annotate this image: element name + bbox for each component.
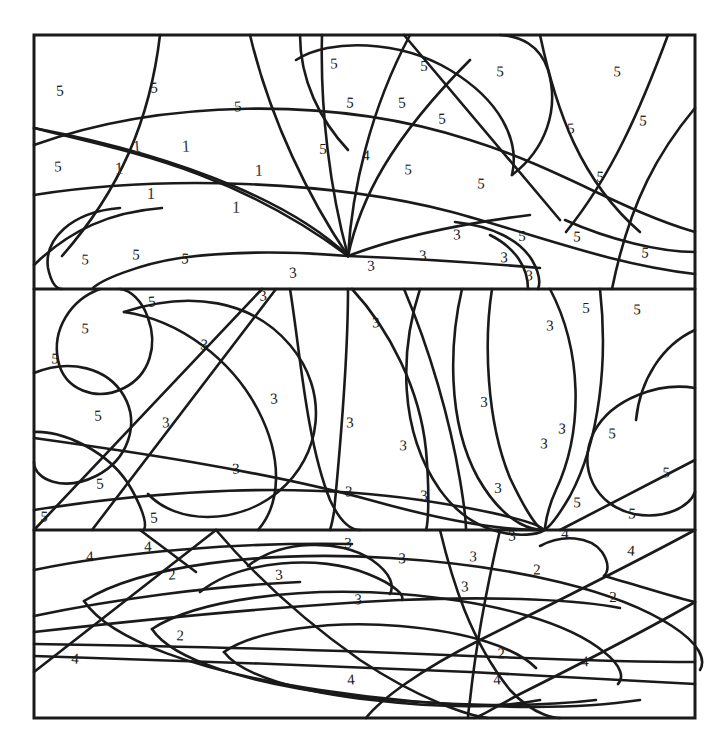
region-number: 5	[641, 244, 650, 260]
region-number: 5	[148, 293, 157, 309]
region-number: 3	[399, 437, 407, 453]
region-number: 3	[344, 535, 352, 551]
region-number: 1	[181, 137, 190, 156]
region-number: 3	[232, 460, 240, 476]
region-number: 5	[420, 58, 428, 74]
region-number: 4	[86, 548, 95, 564]
region-number: 1	[114, 159, 123, 178]
region-number: 5	[150, 509, 159, 525]
region-number: 2	[176, 627, 184, 643]
region-number: 5	[573, 228, 581, 244]
region-number: 5	[633, 301, 641, 317]
region-number: 3	[461, 578, 469, 594]
region-number: 5	[40, 508, 49, 524]
region-number: 3	[289, 264, 298, 280]
region-number: 5	[81, 320, 89, 336]
region-number: 1	[132, 137, 142, 157]
region-number: 5	[404, 161, 412, 177]
region-number: 3	[275, 566, 283, 582]
region-number: 3	[367, 257, 375, 273]
page-background	[0, 0, 727, 754]
region-number: 5	[54, 158, 62, 174]
region-number: 2	[533, 561, 541, 577]
coloring-artwork: 5555555555555545551111115553333533555333…	[0, 0, 727, 754]
region-number: 3	[558, 420, 567, 436]
region-number: 5	[639, 112, 647, 128]
region-number: 3	[200, 336, 209, 352]
region-number: 3	[469, 548, 477, 564]
region-number: 3	[259, 287, 267, 303]
region-number: 3	[419, 247, 427, 263]
region-number: 4	[362, 147, 370, 163]
region-number: 5	[608, 425, 616, 441]
region-number: 5	[628, 505, 636, 521]
region-number: 5	[573, 494, 581, 510]
region-number: 5	[662, 464, 670, 480]
region-number: 1	[232, 198, 241, 217]
region-number: 5	[319, 141, 327, 157]
region-number: 5	[81, 251, 89, 267]
region-number: 5	[477, 175, 485, 191]
region-number: 3	[346, 414, 354, 430]
region-number: 3	[494, 480, 502, 496]
region-number: 3	[453, 226, 461, 242]
region-number: 4	[144, 538, 152, 554]
region-number: 3	[162, 414, 170, 430]
region-number: 5	[234, 98, 242, 114]
region-number: 3	[546, 317, 554, 333]
region-number: 3	[540, 435, 548, 451]
coloring-page: 5555555555555545551111115553333533555333…	[0, 0, 727, 754]
region-number: 5	[567, 120, 575, 136]
region-number: 5	[330, 55, 338, 71]
region-number: 4	[581, 653, 590, 669]
region-number: 4	[493, 671, 502, 687]
region-number: 5	[181, 250, 190, 266]
region-number: 3	[270, 390, 279, 406]
region-number: 5	[96, 475, 105, 491]
region-number: 2	[168, 566, 177, 582]
region-number: 5	[56, 82, 65, 98]
region-number: 1	[147, 184, 156, 203]
region-number: 5	[496, 63, 504, 79]
region-number: 5	[438, 110, 446, 126]
region-number: 2	[609, 589, 617, 605]
region-number: 5	[346, 94, 355, 110]
region-number: 3	[420, 487, 428, 503]
region-number: 5	[132, 246, 140, 262]
region-number: 5	[518, 228, 526, 244]
region-number: 3	[500, 249, 508, 265]
region-number: 3	[525, 267, 533, 283]
region-number: 4	[561, 525, 570, 541]
region-number: 1	[255, 161, 264, 180]
region-number: 5	[51, 350, 59, 366]
region-number: 5	[94, 407, 102, 423]
region-number: 3	[398, 550, 406, 566]
region-number: 5	[596, 168, 605, 184]
region-number: 3	[480, 394, 488, 410]
region-number: 2	[497, 645, 505, 661]
region-number: 5	[582, 300, 590, 316]
region-number: 3	[345, 483, 353, 499]
region-number: 5	[150, 79, 158, 95]
region-number: 3	[372, 314, 380, 330]
region-number: 3	[354, 591, 362, 607]
region-number: 3	[508, 527, 516, 543]
region-number: 5	[613, 63, 621, 79]
region-number: 5	[398, 94, 407, 110]
